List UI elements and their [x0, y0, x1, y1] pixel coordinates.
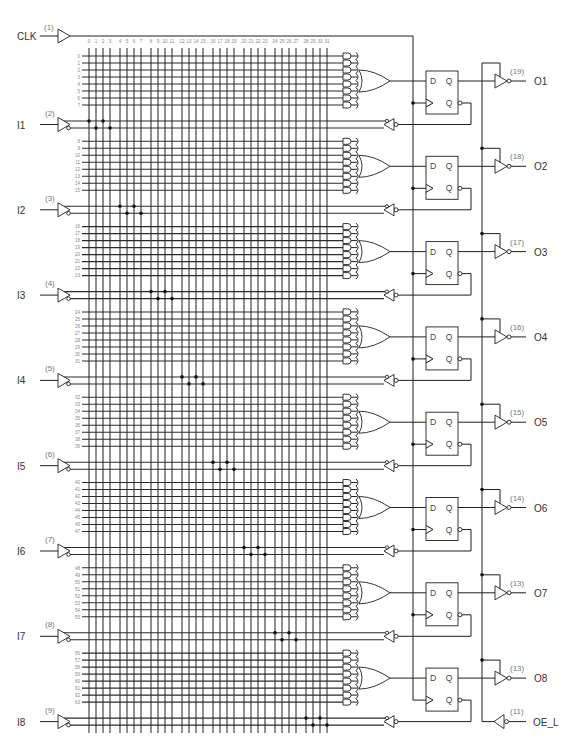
output-buffer-icon: [495, 671, 507, 685]
and-gate-icon: [343, 316, 351, 322]
inversion-bubble-icon: [394, 293, 398, 297]
and-gate-icon: [343, 501, 351, 507]
inversion-bubble-icon: [385, 717, 388, 720]
junction-dot: [156, 297, 160, 301]
column-label: 30: [317, 39, 323, 44]
row-label: 43: [75, 501, 81, 506]
column-label: 21: [248, 39, 254, 44]
row-label: 50: [75, 580, 81, 585]
output-label: O5: [534, 417, 548, 428]
and-gate-icon: [343, 685, 351, 691]
junction-dot: [480, 232, 484, 236]
and-gate-icon: [343, 436, 351, 442]
input-columns: 0123456789101112131415161718192021222324…: [88, 39, 330, 734]
inversion-bubble-icon: [67, 638, 71, 642]
and-gate-icon: [343, 95, 351, 101]
output-buffer-icon: [495, 415, 507, 429]
junction-dot: [325, 723, 329, 727]
flip-flop-q-label: Q: [446, 76, 453, 86]
or-gate-input-bus: [356, 650, 358, 706]
inversion-bubble-icon: [67, 382, 71, 386]
junction-dot: [311, 723, 315, 727]
column-label: 14: [193, 39, 199, 44]
and-gate-icon: [343, 60, 351, 66]
output-enable-buffer-icon: [494, 715, 504, 729]
inversion-bubble-icon: [507, 164, 511, 168]
or-gate-input-bus: [356, 564, 358, 620]
or-gate-icon: [359, 411, 390, 433]
inversion-bubble-icon: [394, 208, 398, 212]
and-gate-icon: [343, 152, 351, 158]
input-pin-number: (5): [45, 364, 55, 373]
junction-dot: [242, 546, 246, 550]
row-label: 10: [75, 153, 81, 158]
row-label: 8: [77, 139, 80, 144]
inversion-bubble-icon: [67, 467, 71, 471]
column-label: 0: [88, 39, 91, 44]
row-label: 37: [75, 430, 81, 435]
row-label: 19: [75, 245, 81, 250]
and-gate-icon: [343, 422, 351, 428]
row-label: 26: [75, 324, 81, 329]
row-label: 30: [75, 352, 81, 357]
output-label: O3: [534, 247, 548, 258]
junction-dot: [249, 553, 253, 557]
column-label: 2: [102, 39, 105, 44]
row-label: 47: [75, 529, 81, 534]
inversion-bubble-icon: [394, 549, 398, 553]
input-label: I3: [17, 290, 26, 301]
and-gate-icon: [343, 323, 351, 329]
row-label: 24: [75, 310, 81, 315]
and-gate-icon: [343, 358, 351, 364]
and-gate-icon: [343, 238, 351, 244]
row-label: 33: [75, 402, 81, 407]
or-gate-icon: [359, 582, 390, 604]
flip-flop-d-label: D: [430, 76, 436, 86]
output-buffer-icon: [495, 330, 507, 344]
row-label: 62: [75, 693, 81, 698]
output-pin-number: (19): [510, 67, 525, 76]
junction-dot: [280, 638, 284, 642]
row-label: 23: [75, 273, 81, 278]
input-label: I1: [17, 120, 26, 131]
row-label: 12: [75, 167, 81, 172]
junction-dot: [187, 382, 191, 386]
and-gate-icon: [343, 529, 351, 535]
output-label: O8: [534, 673, 548, 684]
output-buffer-icon: [495, 586, 507, 600]
junction-dot: [411, 272, 415, 276]
row-label: 11: [75, 160, 80, 165]
column-label: 6: [133, 39, 136, 44]
junction-dot: [480, 147, 484, 151]
column-label: 19: [231, 39, 237, 44]
junction-dot: [225, 460, 229, 464]
column-label: 13: [186, 39, 192, 44]
row-label: 61: [75, 686, 81, 691]
or-gate-icon: [359, 667, 390, 689]
and-gate-icon: [343, 593, 351, 599]
and-gate-icon: [343, 88, 351, 94]
output-pin-number: (13): [510, 579, 525, 588]
row-label: 34: [75, 409, 81, 414]
column-label: 29: [310, 39, 316, 44]
row-label: 22: [75, 266, 81, 271]
column-label: 9: [157, 39, 160, 44]
junction-dot: [304, 716, 308, 720]
output-pin-number: (14): [510, 494, 525, 503]
junction-dot: [139, 212, 143, 216]
row-label: 52: [75, 594, 81, 599]
inversion-bubble-icon: [385, 205, 388, 208]
and-gate-icon: [343, 429, 351, 435]
flip-flop-d-label: D: [430, 247, 436, 257]
output-enable-pin-number: (11): [510, 707, 524, 716]
and-gate-icon: [343, 579, 351, 585]
inversion-bubble-icon: [394, 464, 398, 468]
and-gate-icon: [343, 408, 351, 414]
flip-flop-d-label: D: [430, 332, 436, 342]
input-pin-number: (7): [45, 535, 55, 544]
junction-dot: [125, 212, 129, 216]
output-buffer-icon: [495, 74, 507, 88]
and-gate-icon: [343, 145, 351, 151]
inversion-bubble-icon: [505, 720, 509, 724]
row-label: 25: [75, 317, 81, 322]
